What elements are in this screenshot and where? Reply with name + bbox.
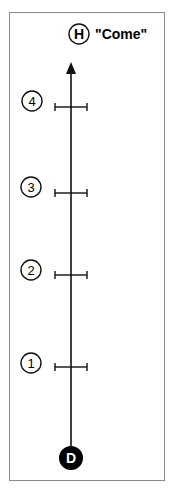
top-node: H (69, 24, 89, 44)
step-4: 4 (22, 91, 87, 111)
step-label: 4 (28, 94, 35, 109)
arrowhead-icon (66, 62, 76, 74)
step-1: 1 (21, 353, 87, 373)
bottom-node: D (59, 446, 83, 470)
bottom-node-label: D (66, 450, 76, 466)
step-3: 3 (21, 177, 87, 197)
top-node-label: H (74, 26, 84, 42)
progression-diagram: H "Come" 4 3 2 1 D (0, 0, 175, 499)
step-label: 3 (27, 180, 34, 195)
top-node-caption: "Come" (95, 26, 147, 42)
step-2: 2 (21, 260, 87, 280)
step-label: 1 (27, 356, 34, 371)
step-label: 2 (27, 263, 34, 278)
